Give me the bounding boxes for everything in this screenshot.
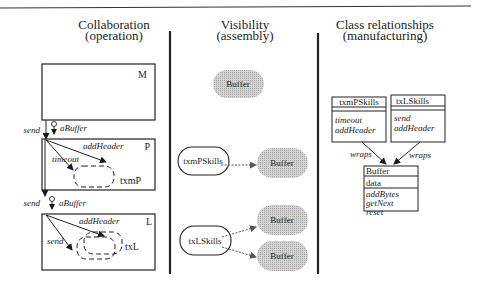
component-txL-back	[77, 237, 115, 259]
flow-message: send	[24, 198, 41, 208]
operation: addHeader	[394, 123, 435, 133]
box-l-label: L	[146, 216, 152, 227]
txLSkills-label: txLSkills	[188, 236, 222, 246]
component-txmP	[74, 166, 114, 187]
class-txLSkills: txLSkills send addHeader	[391, 95, 445, 142]
panel-subtitle: (operation)	[85, 28, 143, 43]
buffer-label: Buffer	[226, 79, 249, 89]
relation-label: wraps	[409, 150, 432, 160]
class-name: txmPSkills	[339, 97, 379, 107]
panel-class-relationships: Class relationships (manufacturing) txmP…	[332, 17, 445, 217]
buffer-label: Buffer	[270, 158, 293, 168]
class-name: txLSkills	[396, 96, 430, 106]
operation: reset	[366, 207, 384, 217]
data-token-icon	[50, 197, 55, 210]
message-label: send	[47, 236, 64, 246]
box-p-label: P	[144, 141, 150, 152]
class-Buffer: Buffer data addBytes getNext reset	[364, 166, 418, 217]
operation: send	[394, 113, 411, 123]
relation-label: wraps	[350, 149, 373, 159]
component-label: txL	[125, 241, 139, 252]
message-label: addHeader	[83, 141, 124, 151]
panel-collaboration: Collaboration (operation) M send aBuffer…	[24, 17, 156, 270]
diagram-canvas: Collaboration (operation) M send aBuffer…	[0, 0, 481, 294]
data-token-icon	[52, 122, 57, 135]
operation: addHeader	[335, 125, 376, 135]
message-label: addHeader	[79, 216, 120, 226]
message-label: timeout	[52, 154, 79, 164]
buffer-label: Buffer	[270, 215, 293, 225]
attribute: data	[366, 178, 381, 188]
flow-param: aBuffer	[59, 198, 86, 208]
flow-message: send	[24, 125, 41, 135]
panel-visibility: Visibility (assembly) Buffer txmPSkills …	[178, 17, 308, 271]
txmPSkills-label: txmPSkills	[183, 156, 223, 166]
operation: timeout	[335, 115, 362, 125]
class-txmPSkills: txmPSkills timeout addHeader	[332, 97, 386, 142]
class-name: Buffer	[366, 166, 389, 176]
buffer-label: Buffer	[270, 251, 293, 261]
component-label: txmP	[120, 175, 142, 186]
flow-param: aBuffer	[60, 123, 87, 133]
top-rule	[0, 6, 471, 8]
box-m-label: M	[138, 69, 147, 80]
panel-subtitle: (assembly)	[216, 28, 273, 43]
panel-subtitle: (manufacturing)	[343, 28, 427, 43]
